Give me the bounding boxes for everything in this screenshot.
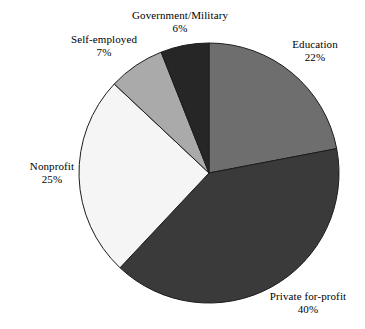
slice-label-private-for-profit: Private for-profit 40%: [252, 290, 364, 317]
slice-label-private-for-profit-name: Private for-profit: [252, 290, 364, 303]
slice-label-self-employed: Self-employed 7%: [46, 33, 162, 60]
pie-slice-group: [79, 43, 339, 303]
pie-chart: Education 22% Private for-profit 40% Non…: [0, 0, 365, 329]
slice-label-education: Education 22%: [268, 38, 362, 65]
slice-label-government-military: Government/Military 6%: [110, 9, 250, 36]
slice-label-nonprofit-value: 25%: [6, 173, 98, 186]
slice-label-government-military-value: 6%: [110, 22, 250, 35]
slice-label-government-military-name: Government/Military: [110, 9, 250, 22]
slice-label-nonprofit: Nonprofit 25%: [6, 160, 98, 187]
slice-label-self-employed-value: 7%: [46, 46, 162, 59]
slice-label-private-for-profit-value: 40%: [252, 303, 364, 316]
slice-label-nonprofit-name: Nonprofit: [6, 160, 98, 173]
slice-label-education-value: 22%: [268, 51, 362, 64]
slice-label-education-name: Education: [268, 38, 362, 51]
